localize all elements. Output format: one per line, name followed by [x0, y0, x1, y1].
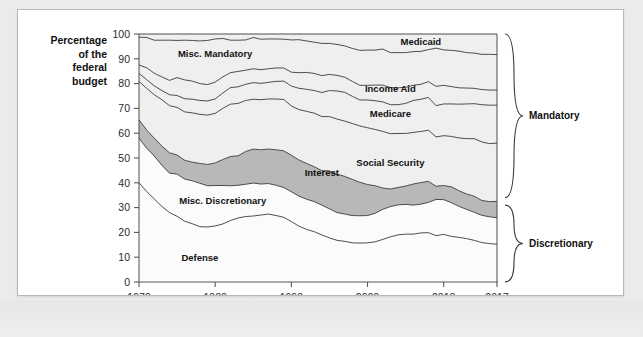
x-tick-label-2017: 2017 — [485, 291, 509, 295]
brace-discretionary — [505, 205, 523, 282]
y-tick-label-100: 100 — [112, 28, 130, 40]
group-brackets: MandatoryDiscretionary — [505, 34, 593, 282]
y-tick-label-90: 90 — [118, 53, 130, 65]
y-tick-label-70: 70 — [118, 102, 130, 114]
y-tick-label-50: 50 — [118, 152, 130, 164]
brace-mandatory — [505, 34, 523, 198]
series-label-interest: Interest — [305, 167, 340, 178]
series-label-misc-discretionary: Misc. Discretionary — [179, 195, 267, 206]
y-tick-label-40: 40 — [118, 177, 130, 189]
group-label-mandatory: Mandatory — [529, 110, 580, 121]
y-tick-label-30: 30 — [118, 201, 130, 213]
y-tick-label-0: 0 — [124, 276, 130, 288]
group-label-discretionary: Discretionary — [529, 238, 593, 249]
axis-caption-line-4: budget — [72, 75, 107, 87]
series-label-medicaid: Medicaid — [401, 36, 442, 47]
stacked-area-bands — [139, 34, 497, 282]
x-tick-label-1990: 1990 — [280, 291, 304, 295]
series-label-medicare: Medicare — [370, 108, 411, 119]
axis-caption-line-1: Percentage — [50, 34, 107, 46]
x-tick-label-2010: 2010 — [432, 291, 456, 295]
x-tick-label-2000: 2000 — [356, 291, 380, 295]
x-tick-label-1980: 1980 — [203, 291, 227, 295]
y-tick-label-10: 10 — [118, 251, 130, 263]
x-tick-label-1970: 1970 — [127, 291, 151, 295]
budget-composition-area-chart: 0102030405060708090100197019801990200020… — [18, 10, 623, 295]
y-tick-label-60: 60 — [118, 127, 130, 139]
y-tick-label-80: 80 — [118, 77, 130, 89]
axis-caption-line-2: of the — [78, 48, 107, 60]
series-label-social-security: Social Security — [356, 157, 425, 168]
y-tick-label-20: 20 — [118, 226, 130, 238]
series-label-defense: Defense — [181, 252, 218, 263]
series-label-income-aid: Income Aid — [365, 83, 416, 94]
series-label-misc-mandatory: Misc. Mandatory — [178, 48, 253, 59]
y-axis-caption: Percentageof thefederalbudget — [50, 34, 107, 87]
page-shadow — [0, 300, 643, 337]
figure-card: 0102030405060708090100197019801990200020… — [17, 9, 624, 296]
axis-caption-line-3: federal — [73, 61, 108, 73]
